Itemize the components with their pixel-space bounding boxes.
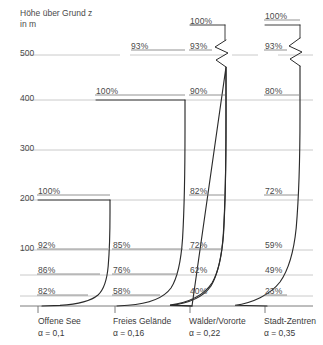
column-alpha-2: α = 0,16 [113, 328, 171, 340]
value-label-c4-59: 59% [265, 240, 282, 250]
column-name-3: Wälder/Vororte [189, 316, 246, 328]
column-caption-1: Offene See α = 0,1 [38, 316, 81, 339]
value-label-c2-85: 85% [113, 240, 130, 250]
value-label-c2-76: 76% [113, 265, 130, 275]
value-label-c3-62: 62% [190, 265, 207, 275]
column-caption-3: Wälder/Vororte α = 0,22 [189, 316, 246, 339]
y-tick-300: 300 [20, 143, 34, 153]
value-label-c3-100: 100% [190, 16, 212, 26]
value-label-c3-93: 93% [190, 41, 207, 51]
value-label-c2-58: 58% [113, 286, 130, 296]
value-label-c3-72: 72% [190, 240, 207, 250]
value-underlines-4 [264, 20, 300, 295]
break-symbol-3 [215, 40, 228, 67]
baseline-group [20, 306, 313, 313]
column-name-1: Offene See [38, 316, 81, 328]
column-alpha-3: α = 0,22 [189, 328, 246, 340]
value-label-c1-86: 86% [38, 265, 55, 275]
y-tick-400: 400 [20, 93, 34, 103]
y-tick-200: 200 [20, 193, 34, 203]
value-label-c2-93: 93% [131, 41, 148, 51]
y-tick-100: 100 [20, 243, 34, 253]
value-label-c4-49: 49% [265, 265, 282, 275]
value-label-c2-100: 100% [96, 86, 118, 96]
value-label-c4-72: 72% [265, 186, 282, 196]
value-label-c4-100: 100% [265, 11, 287, 21]
value-label-c4-23: 23% [265, 286, 282, 296]
value-label-c3-82: 82% [190, 186, 207, 196]
value-label-c3-90: 90% [190, 86, 207, 96]
value-underlines-3 [189, 50, 225, 249]
profile-column-3 [170, 25, 228, 306]
value-label-c1-82: 82% [38, 286, 55, 296]
y-axis-title-line2: in m [20, 19, 92, 30]
y-axis-title: Höhe über Grund z in m [20, 8, 92, 30]
value-label-c1-100: 100% [38, 186, 60, 196]
column-name-4: Stadt-Zentren [264, 316, 316, 328]
y-axis-title-line1: Höhe über Grund z [20, 8, 92, 19]
profile-column-4 [235, 25, 302, 306]
break-symbol-4 [289, 38, 302, 66]
value-label-c4-80: 80% [265, 86, 282, 96]
value-label-c1-92: 92% [38, 240, 55, 250]
column-caption-2: Freies Gelände α = 0,16 [113, 316, 171, 339]
column-name-2: Freies Gelände [113, 316, 171, 328]
column-caption-4: Stadt-Zentren α = 0,35 [264, 316, 316, 339]
column-alpha-1: α = 0,1 [38, 328, 81, 340]
y-tick-500: 500 [20, 48, 34, 58]
value-label-c3-40: 40% [190, 286, 207, 296]
column-alpha-4: α = 0,35 [264, 328, 316, 340]
wind-profile-diagram: Höhe über Grund z in m 500 400 300 200 1… [0, 0, 323, 345]
value-label-c4-93: 93% [265, 41, 282, 51]
